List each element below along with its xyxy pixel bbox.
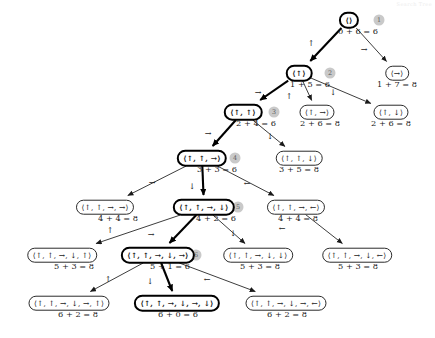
expansion-order-badge: 2	[325, 68, 336, 79]
edge-action-label: →	[205, 129, 212, 138]
edge-action-label: ↑	[286, 92, 293, 101]
edge-action-label: ←	[244, 179, 251, 188]
expansion-order-badge: 3	[269, 107, 280, 118]
edge-action-label: ↓	[189, 182, 196, 191]
edge-action-label: →	[255, 88, 262, 97]
node-cost-label: 3 + 3 = 6	[197, 164, 237, 174]
tree-edge	[213, 120, 236, 146]
edge-action-label: ↑	[107, 226, 114, 235]
node-cost-label: 6 + 2 = 8	[267, 309, 307, 319]
edge-action-label: →	[149, 178, 156, 187]
node-cost-label: 2 + 6 = 8	[371, 118, 411, 128]
edge-action-label: ↑	[105, 275, 112, 284]
node-cost-label: 3 + 5 = 8	[279, 164, 319, 174]
node-cost-label: 5 + 3 = 8	[240, 261, 280, 271]
expansion-order-badge: 4	[230, 153, 241, 164]
edge-action-label: ↓	[147, 277, 154, 286]
node-cost-label: 4 + 2 = 6	[196, 213, 236, 223]
edge-action-label: ←	[204, 275, 211, 284]
node-cost-label: 5 + 3 = 8	[338, 261, 378, 271]
expansion-order-badge: 1	[374, 15, 385, 26]
node-cost-label: 6 + 0 = 6	[158, 309, 198, 319]
node-cost-label: 2 + 4 = 6	[236, 118, 276, 128]
edge-action-label: →	[361, 45, 368, 54]
node-cost-label: 4 + 4 = 8	[98, 213, 138, 223]
node-cost-label: 1 + 5 = 6	[290, 79, 330, 89]
tree-edge	[260, 81, 288, 100]
node-cost-label: 1 + 7 = 8	[377, 79, 417, 89]
tree-edge	[310, 28, 341, 61]
node-cost-label: 0 + 6 = 6	[338, 26, 378, 36]
tree-edge	[170, 215, 197, 243]
edge-action-label: ↑	[308, 39, 315, 48]
edge-action-label: ↓	[267, 132, 274, 141]
node-cost-label: 6 + 2 = 8	[58, 309, 98, 319]
node-cost-label: 4 + 4 = 8	[278, 213, 318, 223]
node-cost-label: 5 + 3 = 8	[54, 261, 94, 271]
search-tree-figure: Search Tree ⟨⟩0 + 6 = 6⟨↑⟩1 + 5 = 6⟨→⟩1 …	[0, 0, 435, 338]
node-cost-label: 5 + 1 = 6	[150, 261, 190, 271]
edge-action-label: ←	[279, 224, 286, 233]
corner-note: Search Tree	[397, 1, 432, 7]
edge-action-label: →	[148, 230, 155, 239]
edge-action-label: ↓	[330, 88, 337, 97]
tree-edge	[90, 263, 143, 292]
tree-edge	[128, 166, 186, 196]
edge-action-label: ↓	[230, 229, 237, 238]
node-cost-label: 2 + 6 = 8	[300, 118, 340, 128]
